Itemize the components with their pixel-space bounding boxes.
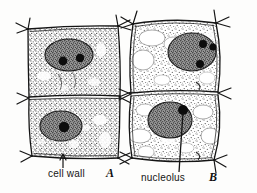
panel-letter-b: B — [209, 170, 217, 185]
nucleus-b-lower — [148, 102, 192, 138]
diagram-canvas — [0, 0, 257, 193]
vacuole — [154, 75, 170, 85]
panel-b-group — [119, 10, 231, 173]
vacuole — [193, 105, 213, 119]
nucleolus-b-upper-1 — [199, 40, 207, 48]
nucleus-a-lower — [40, 111, 82, 141]
vacuole — [132, 50, 154, 70]
nucleolus-a-upper-2 — [76, 54, 84, 62]
panel-a-group — [16, 15, 131, 164]
label-nucleolus: nucleolus — [141, 172, 185, 183]
nucleolus-a-upper-1 — [59, 57, 68, 66]
vacuole — [199, 72, 215, 84]
panel-letter-a: A — [106, 166, 114, 181]
vacuole — [139, 30, 165, 46]
nucleus-a-upper — [45, 39, 93, 71]
nucleolus-b-upper-3 — [196, 60, 204, 68]
label-cell-wall: cell wall — [48, 168, 85, 179]
nucleus-b-upper — [168, 33, 217, 71]
cell-diagram-figure: cell wall nucleolus A B — [0, 0, 257, 193]
nucleolus-a-lower-1 — [59, 122, 69, 132]
nucleolus-b-upper-2 — [209, 43, 216, 50]
